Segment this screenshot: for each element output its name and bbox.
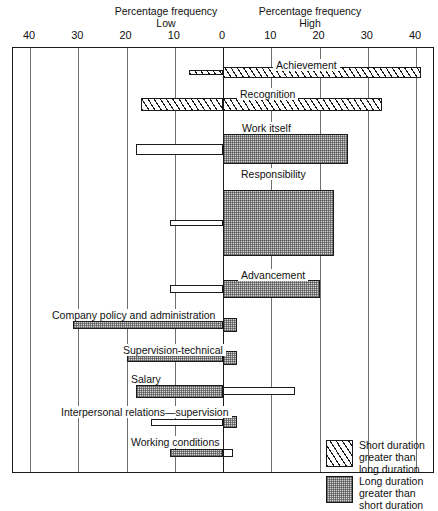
bar-low-interpersonal-relations-supervision [151, 419, 223, 426]
axis-tick-0: 0 [207, 29, 237, 41]
axis-tick-low-20: 20 [111, 29, 141, 41]
axis-tick-high-30: 30 [352, 29, 382, 41]
category-label-working-conditions: Working conditions [128, 436, 223, 448]
axis-tick-low-10: 10 [159, 29, 189, 41]
category-label-advancement: Advancement [238, 269, 308, 281]
legend-label-line: long duration [359, 464, 425, 476]
bar-low-working-conditions [170, 449, 223, 457]
category-label-recognition: Recognition [237, 88, 298, 100]
category-label-supervision-technical: Supervision-technical [120, 344, 226, 356]
plot-area: AchievementRecognitionWork itselfRespons… [12, 47, 434, 473]
category-label-work-itself: Work itself [239, 122, 294, 134]
bar-low-responsibility [170, 220, 223, 226]
bar-low-achievement [189, 70, 223, 75]
legend-label-line: short duration [359, 500, 423, 511]
right-axis-header-line1: Percentage frequency [222, 6, 398, 18]
legend-label-hatch: Short durationgreater thanlong duration [359, 440, 425, 475]
bar-low-work-itself [136, 144, 223, 155]
legend-swatch-dots-icon [326, 476, 353, 503]
bar-high-company-policy-and-administration [223, 318, 237, 332]
category-label-responsibility: Responsibility [238, 168, 309, 180]
category-label-interpersonal-relations-supervision: Interpersonal relations—supervision [58, 406, 232, 418]
legend-label-dots: Long durationgreater thanshort duration [359, 476, 423, 511]
gridline-high-20 [320, 48, 321, 472]
category-label-salary: Salary [128, 373, 164, 385]
legend-item-dots: Long durationgreater thanshort duration [326, 476, 423, 511]
category-label-company-policy-and-administration: Company policy and administration [49, 309, 218, 321]
right-axis-header-line2: High [222, 18, 398, 30]
axis-tick-high-40: 40 [400, 29, 430, 41]
axis-tick-high-10: 10 [255, 29, 285, 41]
legend-item-hatch: Short durationgreater thanlong duration [326, 440, 425, 475]
bar-low-company-policy-and-administration [73, 321, 223, 329]
right-axis-header: Percentage frequency High [222, 6, 398, 29]
bar-high-working-conditions [223, 449, 233, 457]
bar-low-recognition [141, 98, 223, 111]
gridline-high-30 [368, 48, 369, 472]
legend-label-line: greater than [359, 452, 425, 464]
bar-high-advancement [223, 280, 320, 298]
legend-swatch-hatch-icon [326, 440, 353, 467]
bar-low-salary [136, 385, 223, 398]
bar-high-responsibility [223, 190, 334, 256]
axis-tick-high-20: 20 [304, 29, 334, 41]
axis-tick-low-40: 40 [14, 29, 44, 41]
legend-label-line: greater than [359, 488, 423, 500]
gridline-high-40 [416, 48, 417, 472]
bar-high-work-itself [223, 134, 348, 164]
gridline-high-10 [271, 48, 272, 472]
gridline-low-40 [30, 48, 31, 472]
axis-tick-low-30: 30 [62, 29, 92, 41]
bar-high-salary [223, 387, 295, 395]
category-label-achievement: Achievement [273, 59, 340, 71]
bar-low-advancement [170, 285, 223, 293]
